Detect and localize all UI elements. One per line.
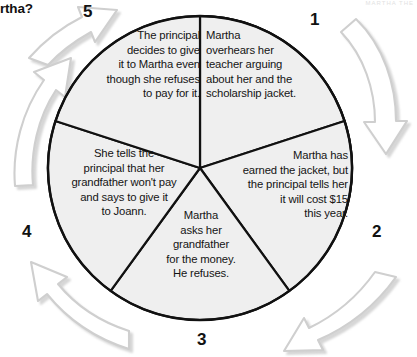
step-number-5: 5 (83, 2, 92, 22)
cycle-diagram: rtha? MARTHA THE (0, 0, 417, 357)
wedge-label-1: Martha overhears her teacher arguing abo… (206, 28, 324, 101)
arrow-1-to-2-icon (341, 19, 407, 154)
step-number-4: 4 (22, 222, 31, 242)
wedge-label-4: She tells the principal that her grandfa… (56, 146, 192, 219)
step-number-2: 2 (372, 222, 381, 242)
arrow-2-to-3-icon (284, 272, 396, 351)
wedge-label-5: The principal decides to give it to Mart… (92, 28, 200, 101)
step-number-1: 1 (310, 10, 319, 30)
step-number-3: 3 (197, 330, 206, 350)
